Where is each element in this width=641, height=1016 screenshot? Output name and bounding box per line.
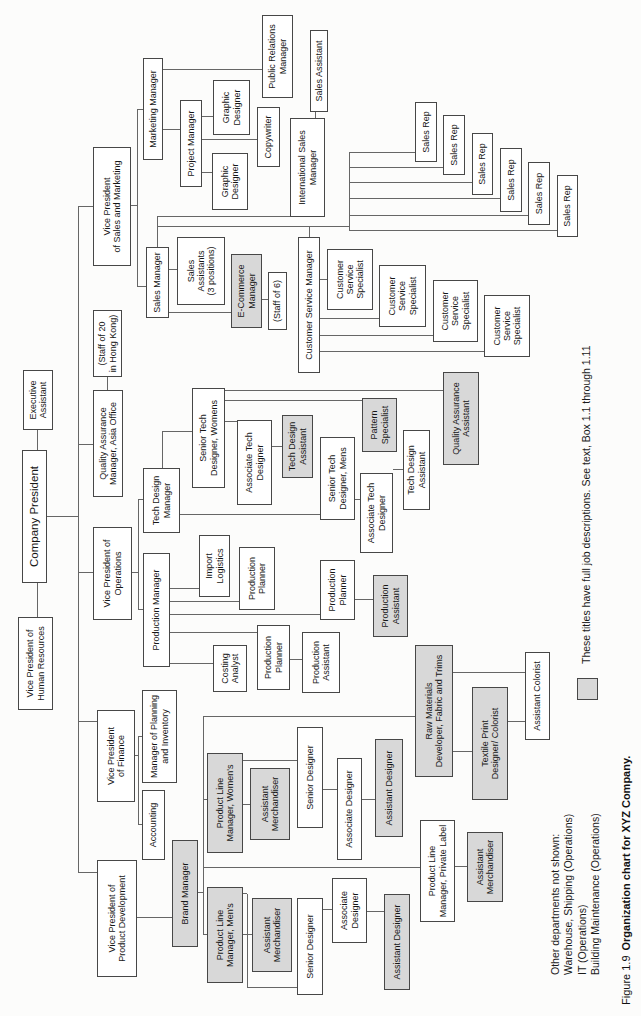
sales-manager-box: Sales Manager (146, 247, 169, 318)
qa-manager-asia-office-box: Quality Assurance Manager, Asia Office (93, 390, 123, 497)
international-sales-manager-box: International Sales Manager (290, 118, 325, 217)
connector-line (203, 867, 420, 868)
vp-human-resources-box: Vice President of Human Resources (18, 617, 53, 710)
connector-line (203, 716, 415, 717)
connector-line (508, 721, 525, 722)
sales-rep-3-box: Sales Rep (472, 133, 493, 195)
sales-rep-6-box: Sales Rep (557, 175, 578, 237)
assistant-merchandiser-private-label-box: Assistant Merchandiser (467, 832, 503, 902)
figure-caption-number: Figure 1.9 (620, 955, 632, 1005)
connector-line (320, 318, 379, 319)
public-relations-manager-box: Public Relations Manager (262, 15, 293, 98)
production-planner-3-box: Production Planner (257, 625, 290, 690)
import-logistics-box: Import Logistics (199, 535, 230, 597)
connector-line (107, 377, 108, 390)
connector-line (243, 804, 250, 805)
senior-designer-womens-box: Senior Designer (297, 727, 323, 828)
assistant-designer-mens-box: Assistant Designer (384, 894, 410, 990)
customer-service-specialist-1-box: Customer Service Specialist (327, 249, 373, 310)
connector-line (349, 152, 415, 153)
raw-materials-developer-box: Raw Materials Developer, Fabric and Trim… (415, 645, 453, 777)
figure-caption-title: Organization chart for XYZ Company. (620, 756, 632, 951)
connector-line (170, 663, 213, 664)
connector-line (78, 572, 93, 573)
connector-line (78, 721, 97, 722)
assistant-merchandiser-mens-box: Assistant Merchandiser (252, 898, 292, 972)
connector-line (157, 216, 290, 217)
quality-assurance-assistant-box: Quality Assurance Assistant (443, 372, 479, 465)
sales-rep-2-box: Sales Rep (443, 115, 465, 175)
connector-line (169, 269, 177, 270)
connector-line (247, 894, 248, 988)
connector-line (162, 432, 163, 468)
connector-line (247, 987, 297, 988)
connector-line (393, 469, 403, 470)
connector-line (202, 172, 212, 173)
sales-rep-4-box: Sales Rep (500, 148, 522, 212)
customer-service-specialist-2-box: Customer Service Specialist (379, 265, 426, 327)
associate-tech-designer-2-box: Associate Tech Designer (360, 473, 393, 553)
connector-line (138, 500, 139, 610)
connector-line (163, 69, 262, 70)
costing-analyst-box: Costing Analyst (213, 645, 247, 692)
product-line-manager-womens-box: Product Line Manager, Women's (207, 753, 243, 853)
textile-print-designer-colorist-box: Textile Print Designer/ Colorist (472, 687, 508, 800)
connector-line (137, 917, 172, 918)
manager-planning-inventory-box: Manager of Planning and Inventory (142, 690, 177, 783)
connector-line (349, 198, 500, 199)
connector-line (309, 227, 310, 237)
customer-service-manager-box: Customer Service Manager (298, 237, 320, 373)
assistant-merchandiser-womens-box: Assistant Merchandiser (250, 768, 290, 840)
connector-line (320, 279, 327, 280)
connector-line (243, 760, 297, 761)
vp-finance-box: Vice President of Finance (97, 710, 135, 802)
connector-line (202, 139, 257, 140)
associate-designer-mens-box: Associate Designer (332, 878, 367, 943)
connector-line (78, 872, 97, 873)
associate-designer-womens-box: Associate Designer (337, 758, 362, 860)
tech-design-manager-box: Tech Design Manager (143, 468, 180, 533)
connector-line (37, 583, 38, 617)
legend-text: These titles have full job descriptions.… (580, 346, 592, 665)
connector-line (78, 206, 93, 207)
customer-service-specialist-4-box: Customer Service Specialist (484, 295, 530, 357)
connector-line (323, 909, 332, 910)
note-line-1: Other departments not shown: (549, 813, 562, 975)
connector-line (349, 215, 528, 216)
connector-line (137, 110, 138, 287)
pattern-specialist-box: Pattern Specialist (362, 398, 397, 452)
connector-line (453, 751, 472, 752)
product-line-manager-private-label-box: Product Line Manager, Private Label (420, 820, 455, 922)
connector-line (320, 335, 433, 336)
connector-line (47, 516, 78, 517)
staff-of-20-box: (Staff of 20 in Hong Kong) (93, 310, 122, 377)
assistant-colorist-box: Assistant Colorist (525, 652, 550, 740)
scanned-figure-page: Other departments not shown: Warehouse, … (0, 0, 641, 1016)
connector-line (157, 217, 158, 247)
assistant-designer-womens-box: Assistant Designer (375, 739, 403, 837)
production-planner-1-box: Production Planner (239, 547, 275, 610)
copywriter-box: Copywriter (257, 107, 280, 167)
connector-line (362, 799, 375, 800)
production-assistant-2-box: Production Assistant (302, 632, 340, 693)
connector-line (37, 430, 38, 450)
sales-rep-5-box: Sales Rep (528, 162, 550, 225)
connector-line (137, 286, 146, 287)
connector-line (138, 737, 139, 825)
accounting-box: Accounting (142, 790, 165, 860)
connector-line (349, 182, 472, 183)
connector-line (202, 116, 213, 117)
figure-caption: Figure 1.9Organization chart for XYZ Com… (620, 756, 632, 1005)
sales-assistant-box: Sales Assistant (310, 30, 328, 112)
connector-line (320, 351, 484, 352)
connector-line (170, 601, 239, 602)
production-manager-box: Production Manager (143, 553, 170, 667)
staff-of-6-box: (Staff of 6) (268, 272, 287, 330)
connector-line (180, 514, 320, 515)
company-president-box: Company President (22, 450, 47, 583)
connector-line (78, 207, 79, 873)
connector-line (355, 599, 373, 600)
connector-line (203, 717, 204, 935)
executive-assistant-box: Executive Assistant (23, 370, 53, 430)
customer-service-specialist-3-box: Customer Service Specialist (433, 280, 478, 342)
